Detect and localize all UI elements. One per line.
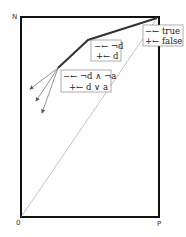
- fan-arrow-1: [30, 68, 58, 89]
- fan-arrow-3: [42, 68, 58, 113]
- roc-diagram: N 0 P −← true +← false −← ¬d +← d −← ¬d …: [0, 0, 186, 237]
- svg-text:−← ¬d: −← ¬d: [94, 41, 124, 51]
- svg-text:+← d ∨ a: +← d ∨ a: [69, 82, 108, 92]
- box-conj: −← ¬d ∧ ¬a +← d ∨ a: [61, 70, 116, 92]
- svg-text:+← d: +← d: [96, 51, 119, 61]
- box-true-false: −← true +← false: [143, 25, 183, 46]
- label-n: N: [12, 13, 17, 21]
- fan-arrow-2: [36, 68, 58, 101]
- box-not-d: −← ¬d +← d: [91, 40, 124, 61]
- svg-text:+← false: +← false: [145, 36, 182, 46]
- label-p: P: [157, 220, 161, 228]
- svg-text:−← ¬d ∧ ¬a: −← ¬d ∧ ¬a: [63, 71, 116, 81]
- diagonal-line: [21, 18, 157, 217]
- svg-text:−← true: −← true: [145, 26, 180, 36]
- label-zero: 0: [16, 219, 20, 227]
